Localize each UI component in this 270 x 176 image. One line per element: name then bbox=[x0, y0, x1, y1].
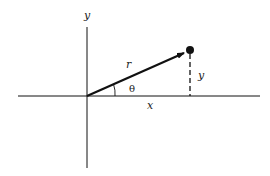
angle-arc bbox=[114, 85, 116, 97]
polar-diagram: y r θ x y bbox=[0, 0, 270, 176]
radius-label: r bbox=[126, 58, 132, 71]
angle-label: θ bbox=[129, 83, 135, 94]
point-marker bbox=[186, 46, 194, 54]
radius-vector bbox=[87, 53, 184, 96]
x-component-label: x bbox=[147, 99, 154, 112]
y-axis-label: y bbox=[83, 9, 91, 22]
y-component-label: y bbox=[197, 69, 205, 82]
